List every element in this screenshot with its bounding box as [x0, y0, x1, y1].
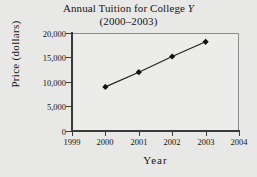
- data-point-marker: [169, 53, 175, 59]
- data-point-marker: [102, 84, 108, 90]
- data-point-marker: [203, 39, 209, 45]
- data-series-layer: [0, 0, 257, 177]
- data-point-marker: [136, 69, 142, 75]
- series-line: [105, 42, 205, 87]
- chart-figure: Annual Tuition for College Y (2000–2003)…: [0, 0, 257, 177]
